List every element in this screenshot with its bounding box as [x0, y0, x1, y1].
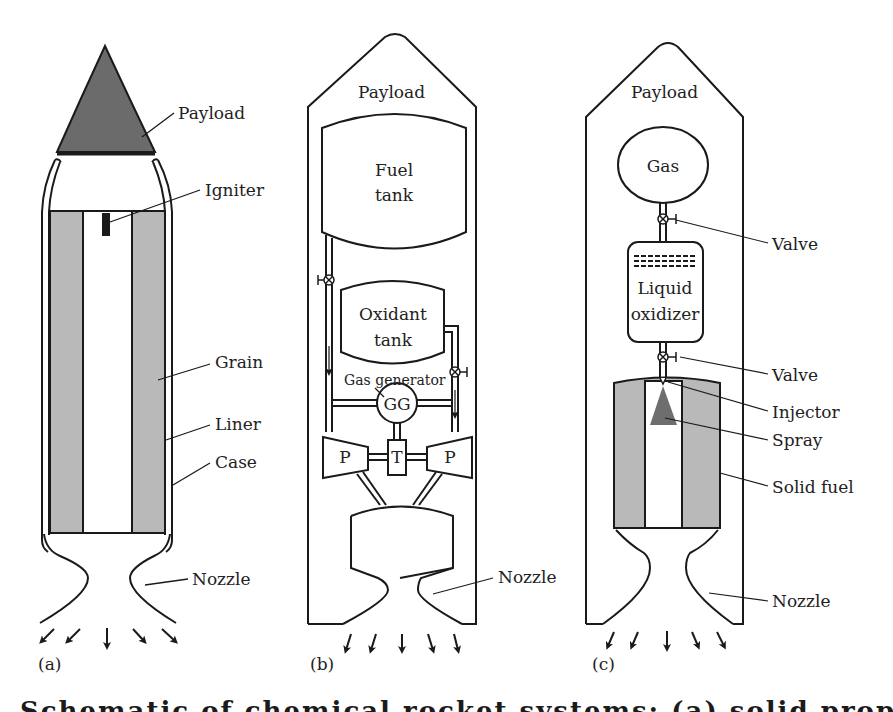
label-case: Case: [215, 452, 257, 472]
label-igniter: Igniter: [205, 180, 265, 200]
combustion-chamber-b: [351, 507, 453, 579]
label-fuel-tank-1: Fuel: [375, 160, 413, 180]
panel-id-a: (a): [38, 654, 61, 674]
label-spray: Spray: [772, 430, 823, 450]
nozzle-c: [603, 530, 650, 624]
label-gas-generator: Gas generator: [344, 372, 446, 388]
exhaust-arrows-a: [42, 628, 175, 646]
label-valve-top: Valve: [771, 234, 818, 254]
label-payload-b: Payload: [358, 82, 425, 102]
exhaust-arrows-b: [346, 634, 458, 650]
grain-right: [132, 211, 165, 533]
fuel-tank: [322, 114, 466, 249]
payload-nose-cone: [57, 46, 155, 152]
label-nozzle-b: Nozzle: [498, 567, 557, 587]
rocket-schematics-figure: Payload Igniter Grain Liner Case Nozzle …: [0, 0, 893, 712]
nozzle-a: [40, 534, 88, 623]
label-payload-a: Payload: [178, 103, 245, 123]
caption-text: Schematic of chemical rocket systems: (a…: [0, 698, 893, 712]
label-fuel-tank-2: tank: [375, 185, 414, 205]
exhaust-arrows-c: [608, 631, 724, 648]
label-solid-fuel: Solid fuel: [772, 477, 854, 497]
panel-b-liquid-rocket: [308, 34, 476, 624]
label-grain: Grain: [215, 352, 263, 372]
label-valve-bottom: Valve: [771, 365, 818, 385]
valve-fuel-b: [318, 275, 334, 285]
label-liquid-oxidizer-1: Liquid: [638, 278, 693, 298]
panel-c-hybrid-rocket: [586, 43, 743, 624]
panel-id-c: (c): [592, 654, 615, 674]
valve-bottom-c: [658, 352, 676, 362]
label-liner: Liner: [215, 414, 262, 434]
label-gas: Gas: [647, 156, 679, 176]
panel-a-solid-rocket: [40, 46, 176, 623]
igniter: [102, 213, 110, 236]
label-injector: Injector: [772, 402, 841, 422]
grain-bore: [83, 211, 132, 533]
label-payload-c: Payload: [631, 82, 698, 102]
label-nozzle-a: Nozzle: [192, 569, 251, 589]
figure-caption-cropped: Schematic of chemical rocket systems: (a…: [0, 698, 893, 712]
label-nozzle-c: Nozzle: [772, 591, 831, 611]
label-oxidant-tank-2: tank: [374, 330, 413, 350]
grain-left: [50, 211, 83, 533]
valve-oxidant-b: [450, 367, 467, 377]
label-pump-left: P: [339, 447, 350, 467]
labels-b: Payload Fuel tank Oxidant tank Gas gener…: [310, 82, 557, 674]
label-oxidant-tank-1: Oxidant: [359, 304, 427, 324]
valve-top-c: [658, 214, 676, 224]
label-gg: GG: [383, 394, 410, 414]
label-liquid-oxidizer-2: oxidizer: [631, 304, 701, 324]
label-turbine: T: [391, 447, 403, 467]
label-pump-right: P: [444, 447, 455, 467]
panel-id-b: (b): [310, 654, 334, 674]
